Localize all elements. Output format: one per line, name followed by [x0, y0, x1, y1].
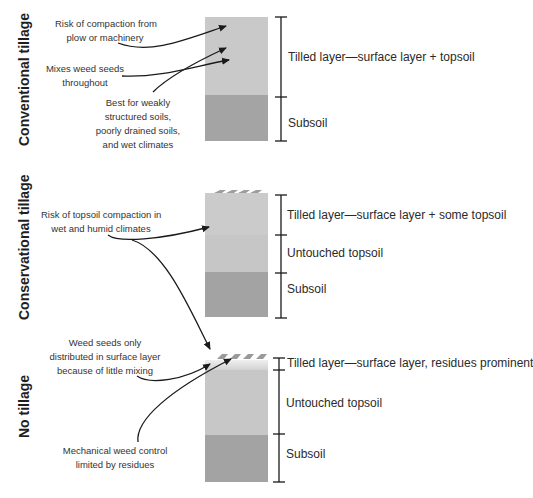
arrow-best-for	[153, 48, 226, 92]
note-line: structured soils,	[93, 110, 183, 124]
note-line: throughout	[42, 76, 128, 90]
layer-label-no-tillage-tilled: Tilled layer—surface layer, residues pro…	[287, 356, 533, 370]
layer-label-no-tillage-subsoil: Subsoil	[286, 447, 325, 461]
note-weed-seeds-surface: Weed seeds only distributed in surface l…	[45, 336, 165, 378]
note-mixes-weed-seeds: Mixes weed seeds throughout	[42, 62, 128, 90]
layer-label-conservational-untouched: Untouched topsoil	[287, 246, 383, 260]
note-line: plow or machinery	[55, 31, 155, 45]
note-mechanical-weed-control: Mechanical weed control limited by resid…	[60, 444, 170, 472]
note-line: Risk of topsoil compaction in	[41, 208, 161, 222]
layer-label-conservational-subsoil: Subsoil	[287, 282, 326, 296]
note-line: because of little mixing	[45, 364, 165, 378]
note-topsoil-compaction: Risk of topsoil compaction in wet and hu…	[41, 208, 161, 236]
note-line: Mixes weed seeds	[42, 62, 128, 76]
bracket-conservational	[275, 195, 287, 318]
arrow-topsoil-compaction-to-no-tillage	[132, 240, 210, 349]
note-line: wet and humid climates	[41, 222, 161, 236]
layer-label-conservational-tilled: Tilled layer—surface layer + some topsoi…	[287, 208, 506, 222]
arrow-weed-seeds	[122, 60, 229, 76]
note-line: poorly drained soils,	[93, 124, 183, 138]
note-compaction: Risk of compaction from plow or machiner…	[55, 17, 155, 45]
layer-label-no-tillage-untouched: Untouched topsoil	[286, 396, 382, 410]
note-line: Mechanical weed control	[60, 444, 170, 458]
layer-label-conventional-subsoil: Subsoil	[288, 116, 327, 130]
note-line: Risk of compaction from	[55, 17, 155, 31]
note-line: limited by residues	[60, 458, 170, 472]
layer-label-conventional-tilled: Tilled layer—surface layer + topsoil	[288, 50, 475, 64]
note-line: Best for weakly	[93, 96, 183, 110]
bracket-conventional	[275, 17, 287, 141]
note-line: Weed seeds only	[45, 336, 165, 350]
residue-marks-conservational	[214, 190, 262, 193]
bracket-no-tillage	[273, 358, 285, 482]
note-line: distributed in surface layer	[45, 350, 165, 364]
note-best-for: Best for weakly structured soils, poorly…	[93, 96, 183, 152]
residue-marks-no-tillage	[217, 354, 267, 359]
note-line: and wet climates	[93, 138, 183, 152]
